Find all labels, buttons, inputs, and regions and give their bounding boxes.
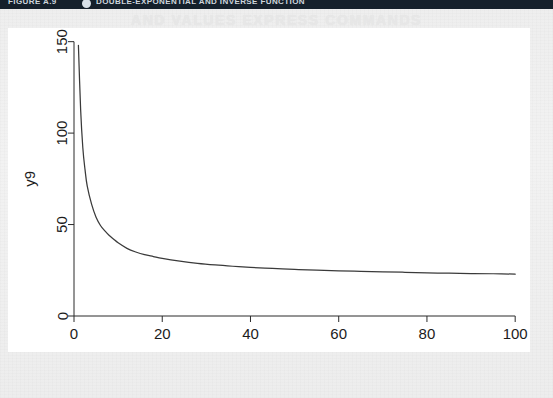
x-axis-tick-label: 0 bbox=[70, 325, 78, 342]
chart-svg: 050100150 020406080100 xy9 bbox=[8, 28, 530, 352]
x-axis-tick-label: 80 bbox=[419, 325, 436, 342]
chart-plot-panel: 050100150 020406080100 xy9 bbox=[8, 28, 530, 352]
x-axis-tick-label: 20 bbox=[154, 325, 171, 342]
circle-bullet-icon bbox=[82, 0, 91, 8]
y-axis-title: y9 bbox=[22, 171, 39, 187]
x-axis-tick-label: 40 bbox=[242, 325, 259, 342]
x-axis-group: 020406080100 bbox=[70, 316, 528, 342]
y-axis-tick-label: 100 bbox=[54, 121, 71, 146]
running-header-bar: FIGURE A.9 DOUBLE-EXPONENTIAL AND INVERS… bbox=[0, 0, 553, 9]
page-watermark-text: AND VALUES EXPRESS COMMANDS bbox=[0, 12, 553, 28]
running-header-figure-label: FIGURE A.9 bbox=[8, 0, 57, 6]
data-series-line bbox=[78, 45, 515, 274]
x-axis-tick-label: 100 bbox=[503, 325, 528, 342]
x-axis-tick-label: 60 bbox=[330, 325, 347, 342]
y-axis-tick-label: 50 bbox=[54, 216, 71, 233]
y-axis-group: 050100150 bbox=[54, 29, 75, 320]
x-axis-title: x bbox=[291, 348, 299, 352]
y-axis-tick-label: 150 bbox=[54, 29, 71, 54]
y-axis-tick-label: 0 bbox=[54, 312, 71, 320]
running-header-title: DOUBLE-EXPONENTIAL AND INVERSE FUNCTION bbox=[96, 0, 305, 6]
curve-group bbox=[78, 45, 515, 274]
